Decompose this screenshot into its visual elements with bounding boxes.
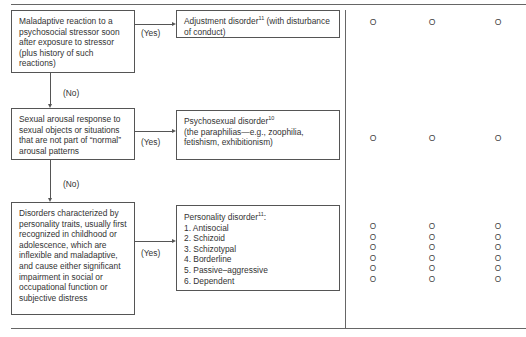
list-item: 5. Passive–aggressive — [184, 265, 332, 276]
mark: O — [366, 275, 380, 286]
mark: O — [491, 233, 505, 244]
marks-col1: O O O O O O — [366, 222, 380, 286]
mark: O — [491, 243, 505, 254]
mark-col2: O — [425, 17, 439, 27]
mark: O — [425, 264, 439, 275]
mark-col3: O — [491, 17, 505, 27]
no-connector — [50, 73, 51, 105]
mark: O — [425, 254, 439, 265]
mark: O — [425, 222, 439, 233]
list-item: 6. Dependent — [184, 276, 332, 287]
mark-col2: O — [425, 133, 439, 143]
condition-box-personality-traits: Disorders characterized by personality t… — [11, 202, 135, 315]
yes-connector — [135, 24, 173, 25]
condition-text: Maladaptive reaction to a psychosocial s… — [19, 16, 120, 68]
mark: O — [425, 275, 439, 286]
result-detail: (the paraphilias—e.g., zoophilia, fetish… — [184, 127, 304, 148]
mark: O — [366, 264, 380, 275]
list-item: 4. Borderline — [184, 254, 332, 265]
top-rule — [11, 4, 526, 5]
mark: O — [425, 233, 439, 244]
mark-col3: O — [491, 133, 505, 143]
result-box-psychosexual-disorder: Psychosexual disorder10 (the paraphilias… — [176, 110, 340, 160]
no-connector — [50, 160, 51, 199]
no-label: (No) — [63, 179, 79, 189]
bottom-rule — [11, 328, 526, 329]
mark: O — [491, 264, 505, 275]
footnote-ref: 10 — [268, 115, 274, 121]
mark: O — [491, 254, 505, 265]
yes-connector — [135, 131, 173, 132]
mark: O — [366, 254, 380, 265]
condition-text: Disorders characterized by personality t… — [19, 208, 127, 303]
column-divider — [345, 10, 346, 328]
marks-col3: O O O O O O — [491, 222, 505, 286]
condition-box-adjustment: Maladaptive reaction to a psychosocial s… — [11, 10, 135, 73]
mark-col1: O — [366, 17, 380, 27]
colon: : — [264, 212, 266, 222]
result-title: Adjustment disorder — [184, 16, 258, 26]
list-item: 1. Antisocial — [184, 223, 332, 234]
condition-box-sexual-arousal: Sexual arousal response to sexual object… — [11, 108, 135, 160]
yes-label: (Yes) — [141, 28, 160, 38]
yes-label: (Yes) — [141, 137, 160, 147]
personality-disorder-list: 1. Antisocial 2. Schizoid 3. Schizotypal… — [184, 223, 332, 287]
list-item: 3. Schizotypal — [184, 244, 332, 255]
mark: O — [425, 243, 439, 254]
result-title: Psychosexual disorder — [184, 116, 268, 126]
mark: O — [366, 222, 380, 233]
no-label: (No) — [63, 88, 79, 98]
result-box-adjustment-disorder: Adjustment disorder11 (with disturbance … — [176, 10, 340, 38]
mark-col1: O — [366, 133, 380, 143]
yes-label: (Yes) — [141, 248, 160, 258]
footnote-ref: 11 — [258, 15, 264, 21]
mark: O — [366, 233, 380, 244]
marks-col2: O O O O O O — [425, 222, 439, 286]
result-box-personality-disorder: Personality disorder11: 1. Antisocial 2.… — [176, 205, 340, 291]
mark: O — [491, 275, 505, 286]
list-item: 2. Schizoid — [184, 233, 332, 244]
mark: O — [491, 222, 505, 233]
condition-text: Sexual arousal response to sexual object… — [19, 114, 121, 156]
result-title: Personality disorder — [184, 212, 258, 222]
yes-connector — [135, 241, 173, 242]
mark: O — [366, 243, 380, 254]
